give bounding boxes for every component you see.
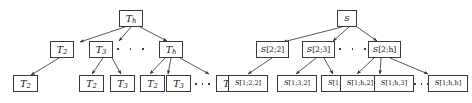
ellipsis-left-level2: [117, 48, 144, 50]
node-left-l3-1: T2: [79, 75, 104, 92]
node-right-l3-0: S[1;2,2]: [228, 75, 268, 92]
node-left-l3-2: T3: [110, 75, 135, 92]
node-left-l2-0-sub: 2: [63, 48, 67, 56]
ellipsis-right-level3: [414, 83, 429, 85]
node-left-root-sub: h: [132, 17, 136, 25]
node-left-l3-1-sub: 2: [92, 82, 96, 90]
node-right-l3-0-index: [1;2,2]: [240, 79, 262, 87]
node-right-l3-4-index: [1;h,3]: [386, 79, 408, 87]
node-right-l2-2-index: [2;h]: [378, 44, 396, 53]
node-left-l2-2-sub: h: [172, 48, 176, 56]
node-left-l2-1: T3: [89, 41, 113, 58]
node-right-root: S: [337, 10, 357, 27]
ellipsis-left-level3: [195, 83, 210, 85]
node-right-l3-4: S[1;h,3]: [374, 75, 414, 92]
node-right-l3-5: S[1;h,h]: [428, 75, 468, 92]
node-left-l2-1-sub: 3: [102, 48, 106, 56]
ellipsis-right-level2: [339, 48, 366, 50]
node-right-l2-0-index: [2;2]: [266, 44, 284, 53]
node-right-l2-2: S[2;h]: [368, 41, 401, 58]
node-right-l2-0: S[2;2]: [256, 41, 289, 58]
node-left-l3-0: T2: [13, 75, 38, 92]
node-left-l2-2: Th: [159, 41, 183, 58]
node-left-l3-3: T2: [140, 75, 165, 92]
node-right-l2-1: S[2;3]: [302, 41, 335, 58]
node-left-l3-4: T3: [166, 75, 191, 92]
node-left-l3-4-sub: 3: [179, 82, 183, 90]
node-left-l3-3-sub: 2: [153, 82, 157, 90]
node-right-l3-5-index: [1;h,h]: [439, 79, 461, 87]
node-left-root: Th: [119, 10, 143, 27]
node-right-l2-1-index: [2;3]: [312, 44, 330, 53]
node-right-l3-1: S[1;3,2]: [277, 75, 317, 92]
node-right-l3-1-index: [1;3,2]: [289, 79, 311, 87]
node-left-l3-0-sub: 2: [26, 82, 30, 90]
node-left-l2-0: T2: [50, 41, 74, 58]
node-right-root-base: S: [344, 13, 349, 22]
figure-canvas: Th T2 T3 Th T2 T2 T3 T2 T3 Th S S[2;2] S: [0, 0, 472, 103]
node-left-l3-2-sub: 3: [123, 82, 127, 90]
node-right-l3-3-index: [1;h,2]: [352, 79, 374, 87]
